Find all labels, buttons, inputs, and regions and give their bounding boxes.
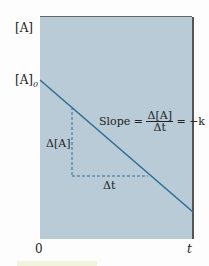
delta-y-label: Δ[A]: [46, 138, 70, 149]
slope-fraction: Δ[A] Δt: [146, 110, 172, 133]
delta-x-label: Δt: [103, 180, 115, 191]
x-origin-label: 0: [35, 243, 43, 255]
slope-prefix: Slope =: [99, 115, 143, 128]
y-axis-label: [A]: [15, 22, 33, 34]
plot-lines: [0, 0, 209, 266]
slope-equation: Slope = Δ[A] Δt = −k: [99, 110, 205, 133]
x-axis-label: t: [187, 243, 192, 255]
highlight-bar: [17, 261, 97, 266]
y-intercept-label: [A]0: [15, 74, 38, 89]
slope-denominator: Δt: [154, 122, 166, 133]
slope-suffix: = −k: [176, 115, 205, 128]
